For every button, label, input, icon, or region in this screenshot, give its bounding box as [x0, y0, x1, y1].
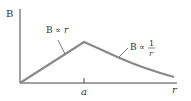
- inner-region-label: B ∝ r: [46, 25, 69, 35]
- outer-region-label: B ∝ 1 r: [130, 39, 155, 58]
- field-profile-diagram: B r a B ∝ r B ∝ 1 r: [0, 0, 191, 101]
- leader-line-inner: [58, 40, 65, 54]
- tick-label-a: a: [81, 86, 87, 97]
- outer-label-lhs: B: [130, 42, 137, 52]
- x-axis-label: r: [172, 84, 178, 95]
- inner-label-relation: ∝: [55, 26, 60, 35]
- outer-label-relation: ∝: [139, 43, 144, 52]
- outer-label-denominator: r: [149, 49, 154, 58]
- leader-line-outer: [119, 48, 128, 57]
- outer-label-numerator: 1: [149, 39, 154, 48]
- inner-label-lhs: B: [46, 25, 53, 35]
- inner-label-rhs: r: [64, 25, 69, 35]
- y-axis-label: B: [6, 8, 13, 19]
